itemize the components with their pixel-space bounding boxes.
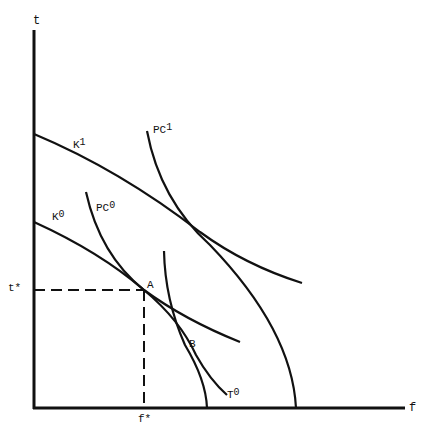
k0-sup: 0 [59,209,65,220]
curve-k1 [34,134,302,283]
curve-label-k0: K0 [52,212,65,223]
curve-k0 [34,222,240,342]
pc0-base: PC [96,202,109,214]
point-b-label: B [189,339,196,350]
k0-base: K [52,211,59,223]
t0-base: T [227,389,234,401]
curve-pc0-t0 [86,192,227,395]
f-star-label: f* [138,414,151,425]
y-axis-label: t [33,15,40,27]
curve-label-pc1: PC1 [153,125,172,136]
pc0-sup: 0 [109,200,115,211]
pc1-sup: 1 [166,122,172,133]
curve-pc1 [147,131,296,408]
t0-sup: 0 [234,387,240,398]
x-axis-label: f [409,402,416,414]
k1-sup: 1 [80,137,86,148]
point-a-label: A [147,280,154,291]
curve-label-pc0: PC0 [96,203,115,214]
curve-label-t0: T0 [227,390,240,401]
pc1-base: PC [153,124,166,136]
curve-steep [164,251,207,408]
curve-label-k1: K1 [73,140,86,151]
k1-base: K [73,139,80,151]
t-star-label: t* [8,283,21,294]
